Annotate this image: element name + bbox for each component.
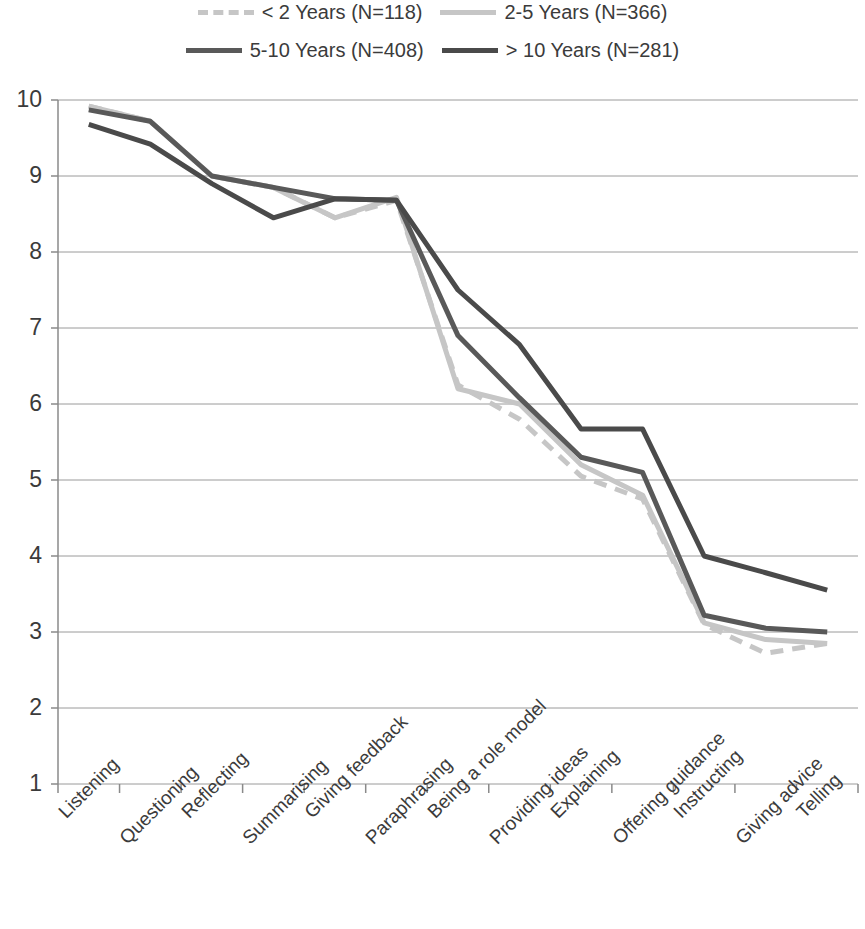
gridlines <box>58 100 858 784</box>
y-tick-label: 9 <box>0 164 42 187</box>
legend-row-2: 5-10 Years (N=408) > 10 Years (N=281) <box>0 40 865 60</box>
legend-label-over-10-years: > 10 Years (N=281) <box>506 40 679 60</box>
legend-entry-over-10-years: > 10 Years (N=281) <box>442 40 679 60</box>
dashed-light-line-swatch <box>198 10 254 15</box>
y-tick-label: 6 <box>0 392 42 415</box>
legend-label-2-5-years: 2-5 Years (N=366) <box>504 2 667 22</box>
legend-entry-5-10-years: 5-10 Years (N=408) <box>186 40 424 60</box>
legend-row-1: < 2 Years (N=118) 2-5 Years (N=366) <box>0 2 865 22</box>
y-tick-label: 10 <box>0 88 42 111</box>
axes <box>51 100 858 793</box>
y-tick-label: 2 <box>0 696 42 719</box>
y-tick-label: 4 <box>0 544 42 567</box>
legend-entry-2-5-years: 2-5 Years (N=366) <box>440 2 667 22</box>
plot-svg <box>0 82 865 802</box>
line-chart: < 2 Years (N=118) 2-5 Years (N=366) 5-10… <box>0 0 865 929</box>
y-tick-label: 8 <box>0 240 42 263</box>
y-tick-label: 7 <box>0 316 42 339</box>
series-lines <box>89 106 827 653</box>
plot-area: 10987654321 <box>0 82 865 802</box>
y-tick-label: 5 <box>0 468 42 491</box>
y-tick-label: 1 <box>0 772 42 795</box>
legend-label-5-10-years: 5-10 Years (N=408) <box>250 40 424 60</box>
series-line-0 <box>89 106 827 653</box>
series-line-3 <box>89 124 827 590</box>
solid-darker-line-swatch <box>442 48 498 53</box>
legend-label-under-2-years: < 2 Years (N=118) <box>262 2 423 22</box>
x-axis-tick-labels: ListeningQuestioningReflectingSummarisin… <box>0 800 865 929</box>
solid-dark-line-swatch <box>186 48 242 53</box>
series-line-2 <box>89 110 827 632</box>
solid-light-line-swatch <box>440 10 496 15</box>
y-tick-label: 3 <box>0 620 42 643</box>
series-line-1 <box>89 106 827 643</box>
chart-legend: < 2 Years (N=118) 2-5 Years (N=366) 5-10… <box>0 0 865 82</box>
legend-entry-under-2-years: < 2 Years (N=118) <box>198 2 423 22</box>
